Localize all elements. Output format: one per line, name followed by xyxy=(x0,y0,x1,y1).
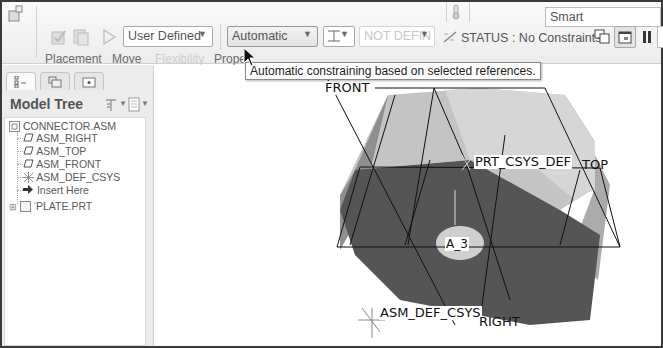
label-asm-def-csys[interactable]: ASM_DEF_CSYS xyxy=(379,306,482,320)
3d-model-view[interactable] xyxy=(155,65,661,346)
selection-filter-field[interactable]: Smart xyxy=(545,7,661,27)
assembly-icon xyxy=(9,121,20,132)
expand-icon[interactable]: ⊞ xyxy=(9,202,17,212)
check-edit-icon[interactable] xyxy=(50,28,68,46)
datum-plane-icon xyxy=(23,146,34,155)
tree-item-label: ASM_TOP xyxy=(36,145,86,157)
separator xyxy=(469,2,470,22)
label-front-plane[interactable]: FRONT xyxy=(324,81,370,95)
next-button-partial[interactable] xyxy=(657,26,663,48)
model-tree-header: Model Tree ▼ ▼ xyxy=(4,92,146,116)
chevron-down-icon: ▼ xyxy=(340,29,349,39)
tree-item-label: CONNECTOR.ASM xyxy=(23,120,116,132)
tab-flexibility[interactable]: Flexibility xyxy=(155,52,204,66)
separator xyxy=(36,6,37,58)
tree-item-asm-top[interactable]: ASM_TOP xyxy=(23,145,86,158)
tree-item-insert-here[interactable]: Insert Here xyxy=(23,184,89,197)
mouse-cursor-icon xyxy=(243,47,257,67)
tree-filters-icon[interactable] xyxy=(104,98,118,112)
dropdown-value: Automatic xyxy=(232,29,288,43)
folder-icon xyxy=(48,76,62,88)
tab-placement[interactable]: Placement xyxy=(45,52,102,66)
status-text: STATUS : No Constraints xyxy=(461,31,602,45)
settings-list-icon[interactable] xyxy=(128,97,140,112)
tree-connector xyxy=(17,132,18,204)
graphics-viewport[interactable]: FRONT PRT_CSYS_DEF TOP A_3 ASM_DEF_CSYS … xyxy=(155,65,661,346)
constraint-type-dropdown[interactable]: Automatic▼ xyxy=(227,26,318,47)
datum-plane-icon xyxy=(23,133,34,142)
coincident-icon xyxy=(327,30,341,42)
separate-window-icon[interactable] xyxy=(594,29,610,44)
tree-item-label: ASM_FRONT xyxy=(36,158,101,170)
tab-favorites[interactable] xyxy=(74,72,104,90)
copy-icon[interactable] xyxy=(72,28,90,46)
label-prt-csys-def[interactable]: PRT_CSYS_DEF xyxy=(474,155,572,169)
ribbon-toolbar: User Defined▼ Automatic▼ ▼ NOT DEFIN▼ ST… xyxy=(2,2,661,64)
separator xyxy=(220,24,221,50)
tooltip: Automatic constraining based on selected… xyxy=(245,62,541,80)
label-right-plane[interactable]: RIGHT xyxy=(478,315,521,329)
tree-item-plate-prt[interactable]: ⊞ ▫PLATE.PRT xyxy=(9,197,92,210)
component-placement-icon xyxy=(8,5,24,23)
model-tree-title: Model Tree xyxy=(10,96,83,112)
datum-plane-icon xyxy=(23,159,34,168)
chevron-down-icon: ▼ xyxy=(420,29,429,39)
tree-item-asm-right[interactable]: ASM_RIGHT xyxy=(23,132,98,145)
tree-item-label: Insert Here xyxy=(37,184,89,196)
chevron-down-icon: ▼ xyxy=(198,29,207,39)
label-top-plane[interactable]: TOP xyxy=(581,158,609,172)
tab-properties[interactable]: Prope xyxy=(214,52,246,66)
tree-icon xyxy=(14,76,28,88)
tab-move[interactable]: Move xyxy=(112,52,141,66)
thermometer-icon xyxy=(451,4,461,20)
model-tree: CONNECTOR.ASM ASM_RIGHT ASM_TOP ASM_FRON… xyxy=(4,117,146,346)
flip-icon[interactable] xyxy=(442,30,458,44)
tree-item-label: ASM_RIGHT xyxy=(36,132,97,144)
tab-model-tree[interactable] xyxy=(6,72,36,90)
part-icon xyxy=(20,201,31,212)
chevron-down-icon[interactable]: ▼ xyxy=(141,99,149,108)
tab-folder-browser[interactable] xyxy=(40,72,70,90)
dropdown-value: User Defined xyxy=(128,29,201,43)
offset-dropdown[interactable]: NOT DEFIN▼ xyxy=(359,26,435,47)
application-window-button[interactable] xyxy=(614,26,636,48)
user-defined-dropdown[interactable]: User Defined▼ xyxy=(123,26,213,47)
tree-item-label: PLATE.PRT xyxy=(36,200,92,212)
csys-icon xyxy=(23,172,34,183)
flip-constraint-button[interactable]: ▼ xyxy=(323,26,355,47)
insert-arrow-icon xyxy=(23,185,34,194)
window-icon xyxy=(618,31,632,44)
pause-icon[interactable] xyxy=(642,31,652,43)
play-icon[interactable] xyxy=(100,28,118,46)
chevron-down-icon[interactable]: ▼ xyxy=(119,99,127,108)
chevron-down-icon: ▼ xyxy=(303,29,312,39)
filter-value: Smart xyxy=(550,10,583,24)
navigator-panel: Model Tree ▼ ▼ CONNECTOR.ASM ASM_RIGHT A… xyxy=(2,65,154,346)
separator xyxy=(446,2,447,22)
label-axis-a3[interactable]: A_3 xyxy=(445,237,469,251)
tree-item-asm-def-csys[interactable]: ASM_DEF_CSYS xyxy=(23,171,120,184)
tree-item-label: ASM_DEF_CSYS xyxy=(36,171,120,183)
favorites-icon xyxy=(82,76,96,88)
tree-item-asm-front[interactable]: ASM_FRONT xyxy=(23,158,101,171)
